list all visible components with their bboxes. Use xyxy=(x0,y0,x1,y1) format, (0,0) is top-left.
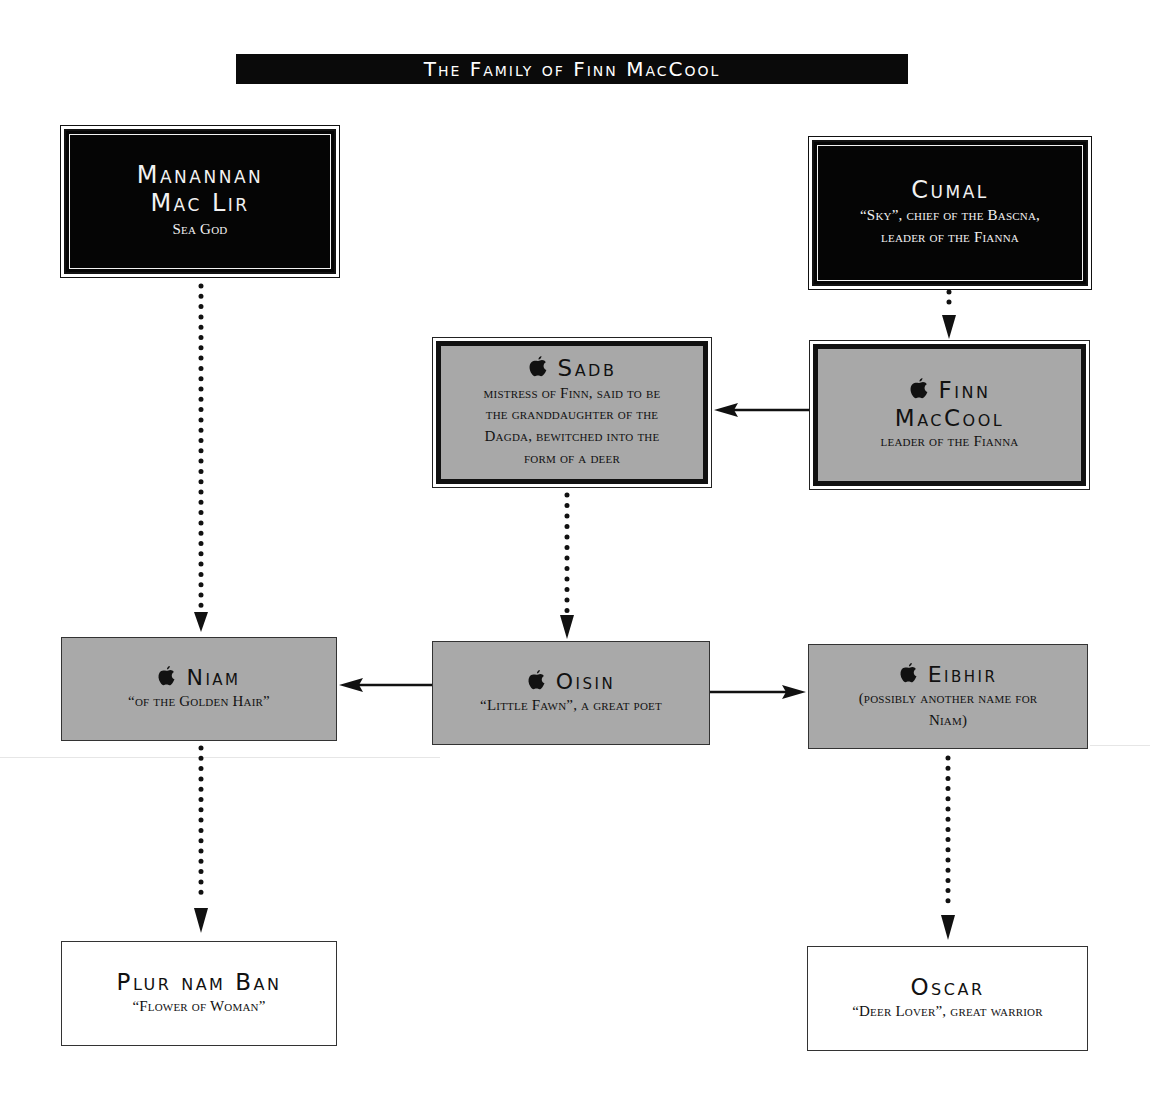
node-manannan-mac-lir: Manannan Mac Lir Sea God xyxy=(64,129,336,274)
node-cumal: Cumal “Sky”, chief of the Bascna, leader… xyxy=(812,140,1088,286)
node-description: leader of the Fianna xyxy=(881,431,1019,453)
node-name-row: Eibhir xyxy=(899,662,998,688)
node-oscar: Oscar “Deer Lover”, great warrior xyxy=(807,946,1088,1051)
dotted-arrow-niam-plur xyxy=(194,748,208,933)
apple-icon xyxy=(527,669,546,695)
node-description: “Little Fawn”, a great poet xyxy=(480,695,662,717)
node-description: “Sky”, chief of the Bascna, xyxy=(860,205,1040,227)
node-description: “of the Golden Hair” xyxy=(128,691,270,713)
node-sadb: Sadb mistress of Finn, said to be the gr… xyxy=(436,341,708,484)
node-name: Plur nam Ban xyxy=(117,969,282,995)
node-eibhir: Eibhir (possibly another name for Niam) xyxy=(808,644,1088,749)
solid-arrow-finn-sadb xyxy=(714,403,810,417)
node-description: form of a deer xyxy=(524,448,620,470)
dotted-arrow-sadb-oisin xyxy=(560,495,574,639)
dotted-arrow-cumal-finn xyxy=(942,292,956,339)
node-description: “Flower of Woman” xyxy=(132,996,265,1018)
dotted-arrow-eibhir-oscar xyxy=(941,758,955,940)
dotted-arrow-manannan-niam xyxy=(194,286,208,632)
node-name: Oscar xyxy=(911,974,985,1000)
apple-icon xyxy=(899,662,918,688)
node-name: Oisin xyxy=(556,669,615,694)
node-name: Finn xyxy=(939,377,991,403)
apple-icon xyxy=(157,665,176,691)
node-name: Manannan xyxy=(137,162,263,190)
node-name: Sadb xyxy=(558,355,617,381)
solid-arrow-oisin-niam xyxy=(339,678,432,692)
node-description: Sea God xyxy=(173,219,228,241)
node-name-row: Niam xyxy=(157,665,240,691)
node-name-row: Finn xyxy=(909,377,991,404)
node-description: Niam) xyxy=(929,710,967,732)
node-description: mistress of Finn, said to be xyxy=(484,383,661,405)
node-plur-nam-ban: Plur nam Ban “Flower of Woman” xyxy=(61,941,337,1046)
node-niam: Niam “of the Golden Hair” xyxy=(61,637,337,741)
node-name: Mac Lir xyxy=(150,190,249,218)
node-finn-maccool: Finn MacCool leader of the Fianna xyxy=(813,344,1086,486)
solid-arrow-oisin-eibhir xyxy=(710,685,806,699)
node-description: leader of the Fianna xyxy=(881,227,1019,249)
node-name-row: Oisin xyxy=(527,669,615,695)
node-name: Eibhir xyxy=(928,662,998,687)
apple-icon xyxy=(909,377,929,404)
node-name: MacCool xyxy=(895,405,1004,431)
node-description: Dagda, bewitched into the xyxy=(485,426,660,448)
node-description: (possibly another name for xyxy=(859,688,1038,710)
node-description: “Deer Lover”, great warrior xyxy=(852,1001,1043,1023)
node-oisin: Oisin “Little Fawn”, a great poet xyxy=(432,641,710,745)
node-description: the granddaughter of the xyxy=(486,404,658,426)
node-name-row: Sadb xyxy=(528,355,617,382)
apple-icon xyxy=(528,355,548,382)
node-name: Cumal xyxy=(911,177,988,205)
node-name: Niam xyxy=(186,665,240,690)
